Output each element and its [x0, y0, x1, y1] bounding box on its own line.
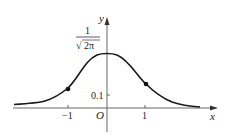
y-axis-label: y: [98, 12, 104, 24]
peak-denominator: 2π: [84, 40, 94, 51]
normal-curve-diagram: y x O −1 1 0.1 1 √ 2π: [0, 0, 230, 137]
radical-sign-icon: √: [76, 40, 82, 51]
origin-label: O: [96, 109, 104, 121]
point-x-neg1: [66, 87, 71, 92]
x-tick-label-neg1: −1: [62, 110, 73, 121]
y-axis: [105, 17, 110, 132]
y-axis-arrow-icon: [105, 17, 110, 25]
peak-value-label: 1 √ 2π: [76, 25, 100, 51]
x-axis-label: x: [209, 110, 215, 122]
x-tick-label-1: 1: [142, 110, 147, 121]
y-tick-label-0.1: 0.1: [91, 90, 104, 101]
point-x-1: [144, 82, 149, 87]
peak-numerator: 1: [85, 25, 90, 36]
